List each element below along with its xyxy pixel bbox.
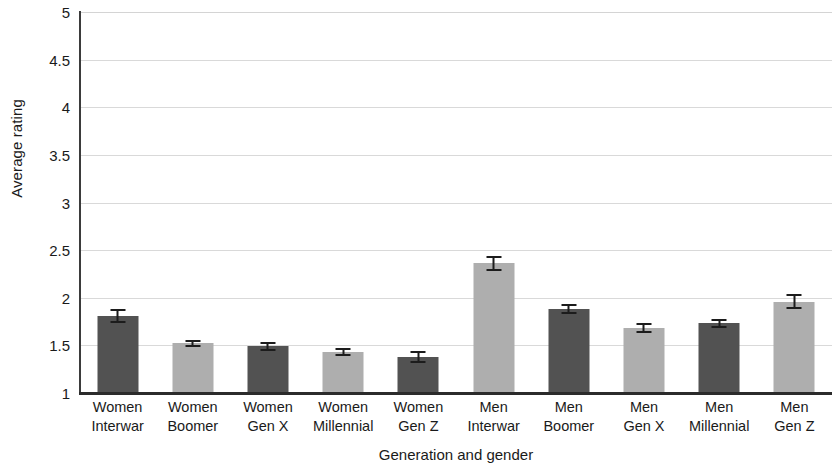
bar-group <box>306 12 381 393</box>
y-axis-tick-label: 5 <box>4 4 70 21</box>
bar-group <box>230 12 305 393</box>
x-axis-tick-label: WomenMillennial <box>306 398 381 436</box>
bar <box>97 316 138 393</box>
x-axis-tick-label: MenGen Z <box>757 398 832 436</box>
bar-group <box>682 12 757 393</box>
bar <box>247 346 288 393</box>
x-axis-tick-label: MenMillennial <box>682 398 757 436</box>
bar-group <box>757 12 832 393</box>
y-axis-tick-label: 2.5 <box>4 242 70 259</box>
error-bar <box>110 309 125 322</box>
error-bar <box>787 294 802 309</box>
error-bar <box>561 304 576 314</box>
x-axis-tick-label: WomenBoomer <box>155 398 230 436</box>
error-bar-cap-bottom <box>411 361 426 363</box>
bar-group <box>531 12 606 393</box>
error-bar-cap-top <box>336 348 351 350</box>
x-axis-line <box>79 392 832 395</box>
error-bar <box>260 342 275 352</box>
error-bar <box>411 351 426 362</box>
error-bar-cap-bottom <box>185 345 200 347</box>
error-bar-cap-bottom <box>486 269 501 271</box>
error-bar-cap-top <box>260 342 275 344</box>
x-axis-tick-label: WomenGen Z <box>381 398 456 436</box>
y-axis-tick-label: 4.5 <box>4 51 70 68</box>
error-bar <box>185 340 200 348</box>
error-bar-cap-top <box>787 294 802 296</box>
y-axis-tick-labels: 54.543.532.521.51 <box>0 0 70 473</box>
error-bar-cap-bottom <box>787 307 802 309</box>
error-bar-cap-bottom <box>260 349 275 351</box>
error-bar-cap-bottom <box>561 312 576 314</box>
x-axis-title: Generation and gender <box>80 446 832 463</box>
y-axis-tick-label: 2 <box>4 289 70 306</box>
error-bar-cap-bottom <box>636 331 651 333</box>
bar <box>323 352 364 393</box>
x-axis-tick-label: WomenInterwar <box>80 398 155 436</box>
bar-group <box>456 12 531 393</box>
y-axis-line <box>79 11 81 394</box>
error-bar <box>486 256 501 271</box>
y-axis-tick-label: 4 <box>4 99 70 116</box>
error-bar <box>712 319 727 329</box>
y-axis-tick-label: 3 <box>4 194 70 211</box>
bar <box>548 309 589 393</box>
error-bar <box>336 348 351 356</box>
x-axis-tick-label: MenBoomer <box>531 398 606 436</box>
x-axis-tick-labels: WomenInterwarWomenBoomerWomenGen XWomenM… <box>80 398 832 442</box>
error-bar-cap-bottom <box>712 326 727 328</box>
error-bar-cap-top <box>712 319 727 321</box>
x-axis-tick-label: MenInterwar <box>456 398 531 436</box>
bar-group <box>155 12 230 393</box>
error-bar-cap-bottom <box>110 321 125 323</box>
y-axis-tick-label: 1.5 <box>4 337 70 354</box>
error-bar <box>636 323 651 333</box>
error-bar-cap-top <box>486 256 501 258</box>
error-bar-cap-top <box>636 323 651 325</box>
error-bar-cap-top <box>110 309 125 311</box>
plot-area <box>80 12 832 393</box>
bar <box>172 343 213 393</box>
bar <box>623 328 664 393</box>
bar-group <box>606 12 681 393</box>
bar-group <box>381 12 456 393</box>
bar-chart: Average rating 54.543.532.521.51 WomenIn… <box>0 0 835 473</box>
x-axis-tick-label: WomenGen X <box>230 398 305 436</box>
bar-group <box>80 12 155 393</box>
bar <box>699 323 740 393</box>
y-axis-tick-label: 3.5 <box>4 146 70 163</box>
x-axis-tick-label: MenGen X <box>606 398 681 436</box>
error-bar-cap-top <box>561 304 576 306</box>
error-bar-cap-bottom <box>336 354 351 356</box>
bar <box>473 263 514 393</box>
bar <box>774 302 815 393</box>
y-axis-tick-label: 1 <box>4 385 70 402</box>
error-bar-cap-top <box>185 340 200 342</box>
error-bar-cap-top <box>411 351 426 353</box>
